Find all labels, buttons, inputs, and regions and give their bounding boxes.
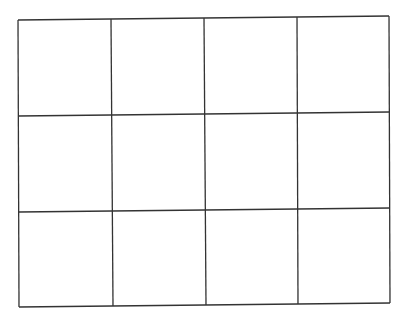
vertical-gridline-2 (204, 18, 206, 305)
vertical-gridline-0 (18, 20, 19, 307)
vertical-gridline-4 (389, 16, 390, 303)
horizontal-gridline-3 (19, 303, 390, 307)
vertical-gridline-3 (297, 17, 298, 304)
grid-diagram (0, 0, 409, 319)
horizontal-gridline-1 (18, 112, 389, 116)
horizontal-gridline-2 (19, 208, 390, 212)
vertical-gridline-1 (111, 19, 113, 306)
vertical-gridlines (18, 16, 390, 307)
